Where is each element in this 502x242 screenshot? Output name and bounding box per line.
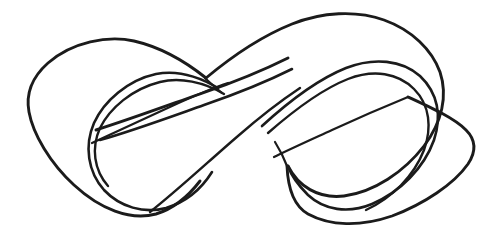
mobius-strip-drawing: [0, 0, 502, 242]
drawing-background: [0, 0, 502, 242]
mobius-strip-figure: [0, 0, 502, 242]
